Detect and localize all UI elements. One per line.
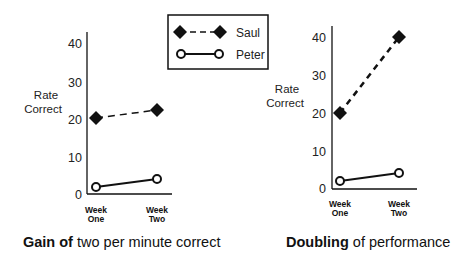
left-ytick-40: 40 [68,37,82,51]
right-ytick-40: 40 [312,31,326,45]
left-saul-point-week-two [150,103,164,117]
right-xtick-week-one-2: One [332,208,349,218]
right-ytick-20: 20 [312,107,326,121]
left-ylabel-line1: Rate [34,89,58,101]
left-xtick-week-one-2: One [88,214,105,224]
left-caption-bold: Gain of [23,234,73,250]
legend-peter-label: Peter [236,48,265,62]
right-saul-point-week-one [333,106,347,120]
right-ytick-30: 30 [312,69,326,83]
right-ylabel-line2: Correct [266,97,305,109]
left-chart: 40 30 20 10 0 Rate Correct Week One Week… [24,32,172,224]
right-peter-point-week-two [395,169,403,177]
right-ylabel-line1: Rate [275,83,299,95]
right-xtick-week-two-2: Two [391,208,407,218]
left-caption-rest: two per minute correct [73,234,220,250]
left-caption: Gain of two per minute correct [23,234,220,250]
right-chart: 40 30 20 10 0 Rate Correct Week One Week… [266,26,417,218]
right-peter-point-week-one [336,177,344,185]
right-ytick-10: 10 [312,145,326,159]
legend-peter-circle-icon [177,50,185,58]
right-caption: Doubling of performance [286,234,450,250]
right-ytick-0: 0 [319,182,326,196]
left-xtick-week-two-2: Two [149,214,165,224]
left-saul-line [96,110,157,118]
left-ytick-30: 30 [68,76,82,90]
right-caption-rest: of performance [349,234,451,250]
left-ytick-20: 20 [68,113,82,127]
left-peter-point-week-two [153,175,161,183]
left-ytick-0: 0 [75,188,82,202]
left-saul-point-week-one [89,111,103,125]
right-saul-line [340,37,399,113]
right-caption-bold: Doubling [286,234,349,250]
right-peter-line [340,173,399,181]
legend: Saul Peter [168,15,268,69]
legend-peter-circle-icon [215,50,223,58]
left-ylabel-line2: Correct [24,103,63,115]
left-ytick-10: 10 [68,151,82,165]
charts-canvas: 40 30 20 10 0 Rate Correct Week One Week… [0,0,453,272]
legend-saul-label: Saul [236,26,260,40]
left-peter-line [96,179,157,187]
left-peter-point-week-one [92,183,100,191]
